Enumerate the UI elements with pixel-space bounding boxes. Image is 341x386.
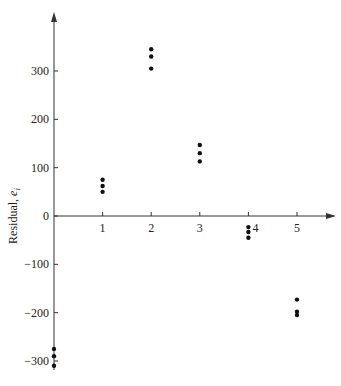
- y-tick-label: −200: [24, 306, 49, 320]
- data-point: [52, 364, 56, 368]
- x-tick-label: 2: [148, 221, 154, 235]
- y-tick-label: −100: [24, 257, 49, 271]
- data-points: [52, 47, 299, 368]
- data-point: [295, 313, 299, 317]
- y-axis-label: Residual, ei: [6, 188, 22, 244]
- y-tick-label: 300: [31, 64, 49, 78]
- data-point: [149, 54, 153, 58]
- data-point: [149, 66, 153, 70]
- x-tick-label: 4: [252, 221, 258, 235]
- y-tick-label: 100: [31, 161, 49, 175]
- data-point: [246, 230, 250, 234]
- y-axis-label-sub: i: [12, 188, 22, 191]
- data-point: [52, 354, 56, 358]
- data-point: [52, 347, 56, 351]
- data-point: [100, 184, 104, 188]
- x-tick-label: 3: [197, 221, 203, 235]
- y-tick-label: 0: [43, 209, 49, 223]
- data-point: [295, 297, 299, 301]
- data-point: [100, 178, 104, 182]
- data-point: [246, 236, 250, 240]
- residual-plot: −300−200−100010020030012345 Residual, ei: [0, 0, 341, 386]
- data-point: [246, 225, 250, 229]
- data-point: [149, 47, 153, 51]
- data-point: [100, 190, 104, 194]
- x-tick-label: 5: [294, 221, 300, 235]
- y-tick-label: −300: [24, 354, 49, 368]
- data-point: [198, 151, 202, 155]
- y-axis-arrow-icon: [51, 12, 57, 22]
- x-axis-arrow-icon: [326, 213, 336, 219]
- y-tick-label: 200: [31, 112, 49, 126]
- x-tick-label: 1: [100, 221, 106, 235]
- data-point: [198, 143, 202, 147]
- y-axis-label-main: Residual,: [6, 196, 20, 244]
- axes: −300−200−100010020030012345: [24, 12, 336, 370]
- data-point: [198, 159, 202, 163]
